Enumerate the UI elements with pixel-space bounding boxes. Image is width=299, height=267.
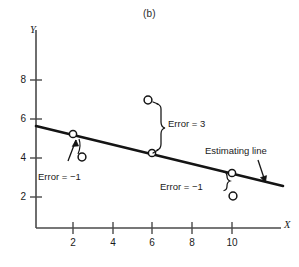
- brace-middle-path: [157, 104, 165, 150]
- y-tick-label-2: 2: [12, 192, 26, 202]
- data-point-3: [229, 192, 237, 200]
- y-tick-label-4: 4: [12, 153, 26, 163]
- plot-canvas: [0, 0, 299, 267]
- y-tick-label-6: 6: [12, 114, 26, 124]
- x-tick-label-4: 4: [104, 238, 122, 248]
- line-point-x10: [228, 169, 235, 176]
- line-point-x6: [148, 149, 155, 156]
- figure-panel: (b): [0, 0, 299, 267]
- estimating-line-label: Estimating line: [205, 146, 267, 156]
- error-middle-brace: [153, 102, 165, 153]
- x-tick-label-2: 2: [64, 238, 82, 248]
- error-right-label: Error = −1: [160, 182, 203, 192]
- x-axis-label: X: [284, 219, 290, 230]
- data-point-1: [78, 153, 86, 161]
- error-left-tick-curve: [78, 139, 80, 154]
- x-tick-label-8: 8: [183, 238, 201, 248]
- line-point-x2: [69, 130, 76, 137]
- error-left-label: Error = −1: [38, 172, 81, 182]
- brace-middle-top-connector: [153, 102, 158, 104]
- x-tick-label-6: 6: [143, 238, 161, 248]
- error-left-arrow-head: [72, 140, 78, 146]
- error-middle-label: Error = 3: [168, 119, 205, 129]
- data-point-2: [144, 96, 152, 104]
- axes-group: [36, 30, 281, 228]
- y-axis-label: Y: [30, 24, 36, 35]
- y-tick-label-8: 8: [12, 75, 26, 85]
- x-tick-label-10: 10: [223, 238, 241, 248]
